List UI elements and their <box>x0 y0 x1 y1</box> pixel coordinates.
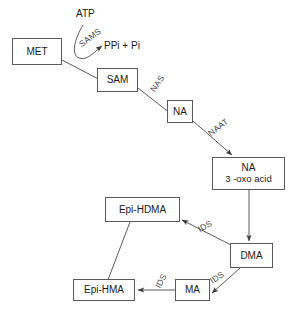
node-epi-hma-label: Epi-HMA <box>84 284 124 296</box>
node-na[interactable]: NA <box>167 100 193 123</box>
label-atp: ATP <box>76 8 95 19</box>
label-ppi-pi: PPi + Pi <box>104 40 140 51</box>
node-ma-label: MA <box>185 284 200 296</box>
node-sam-label: SAM <box>107 74 129 86</box>
node-epi-hdma-label: Epi-HDMA <box>119 204 166 216</box>
pathway-diagram: MET SAM NA NA 3 -oxo acid Epi-HDMA DMA E… <box>0 0 295 316</box>
node-met[interactable]: MET <box>12 38 62 65</box>
node-na-label: NA <box>173 106 187 118</box>
node-dma[interactable]: DMA <box>230 243 273 268</box>
edge-epihdma-epihma <box>106 222 130 285</box>
node-ma[interactable]: MA <box>175 279 210 301</box>
node-sam[interactable]: SAM <box>97 68 138 92</box>
node-na-3-oxo-acid-sublabel: 3 -oxo acid <box>225 174 271 185</box>
node-epi-hdma[interactable]: Epi-HDMA <box>105 197 180 222</box>
node-met-label: MET <box>26 46 47 58</box>
node-na-3-oxo-acid[interactable]: NA 3 -oxo acid <box>212 157 285 190</box>
node-epi-hma[interactable]: Epi-HMA <box>73 279 135 301</box>
node-dma-label: DMA <box>240 250 262 262</box>
